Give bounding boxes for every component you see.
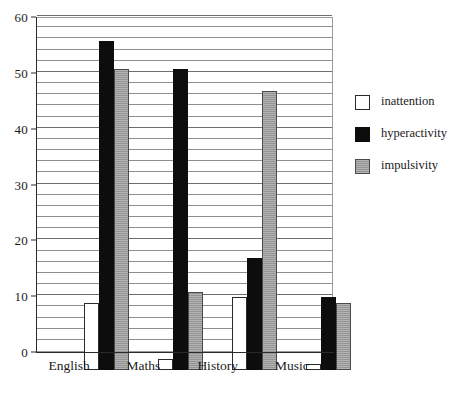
legend-item-hyperactivity: hyperactivity xyxy=(355,118,455,150)
legend-label-inattention: inattention xyxy=(381,95,434,109)
gridline xyxy=(37,26,332,27)
legend-swatch-impulsivity xyxy=(355,159,370,174)
bar-music-impulsivity xyxy=(336,303,351,370)
legend-swatch-inattention xyxy=(355,95,370,110)
y-axis-tick-mark xyxy=(31,128,36,129)
y-axis-tick-label: 50 xyxy=(15,66,28,79)
y-axis-tick-mark xyxy=(31,184,36,185)
y-axis-line xyxy=(36,17,37,353)
x-axis-label-music: Music xyxy=(275,358,309,374)
y-axis-tick-mark xyxy=(31,352,36,353)
y-axis-tick-label: 40 xyxy=(15,122,28,135)
legend-swatch-hyperactivity xyxy=(355,127,370,142)
legend-item-impulsivity: impulsivity xyxy=(355,150,455,182)
legend-label-hyperactivity: hyperactivity xyxy=(381,127,447,141)
bar-history-impulsivity xyxy=(262,91,277,370)
x-axis-category-labels: EnglishMathsHistoryMusic xyxy=(36,358,333,382)
y-axis-tick-mark xyxy=(31,72,36,73)
gridline xyxy=(37,15,332,16)
y-axis-tick-label: 60 xyxy=(15,11,28,24)
x-axis-line xyxy=(36,352,334,353)
plot-area-frame xyxy=(36,17,333,352)
legend-label-impulsivity: impulsivity xyxy=(381,159,438,173)
legend: inattentionhyperactivityimpulsivity xyxy=(355,86,455,182)
y-axis-tick-label: 10 xyxy=(15,290,28,303)
bar-history-hyperactivity xyxy=(247,258,262,370)
y-axis-tick-mark xyxy=(31,296,36,297)
x-axis-label-history: History xyxy=(197,358,238,374)
y-axis-tick-labels: 0102030405060 xyxy=(0,0,36,394)
x-axis-label-english: English xyxy=(48,358,89,374)
bars-layer xyxy=(73,35,370,370)
y-axis-tick-mark xyxy=(31,17,36,18)
bar-chart-figure: 0102030405060 EnglishMathsHistoryMusic i… xyxy=(0,0,460,394)
legend-item-inattention: inattention xyxy=(355,86,455,118)
bar-maths-hyperactivity xyxy=(173,69,188,371)
y-axis-tick-label: 20 xyxy=(15,234,28,247)
bar-english-impulsivity xyxy=(114,69,129,371)
y-axis-tick-label: 0 xyxy=(21,346,28,359)
y-axis-tick-mark xyxy=(31,240,36,241)
bar-english-hyperactivity xyxy=(99,41,114,370)
y-axis-tick-label: 30 xyxy=(15,178,28,191)
x-axis-label-maths: Maths xyxy=(127,358,161,374)
